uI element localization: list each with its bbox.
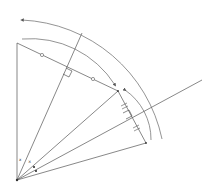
- equal-mark-circle: [91, 77, 94, 80]
- point-B: [117, 90, 119, 92]
- vertex-point: [16, 179, 18, 181]
- angle-label-x: x: [19, 157, 22, 162]
- angle-label-cross: ×: [28, 159, 31, 164]
- angle-mark-dot: [33, 166, 35, 168]
- point-C: [145, 142, 147, 144]
- angle-mark-dot: [35, 170, 37, 172]
- ray-bisector-1: [17, 33, 82, 180]
- segment-BC: [118, 91, 146, 143]
- rays: [17, 33, 202, 180]
- angle-bisector-diagram: x ×: [0, 0, 215, 185]
- middle-arc: [22, 39, 115, 85]
- segments: [17, 43, 146, 143]
- ray-OB: [17, 91, 118, 180]
- segment-AB: [17, 43, 118, 91]
- ray-bisector-2: [17, 80, 202, 180]
- ray-OC: [17, 143, 146, 180]
- equal-mark-circle: [40, 53, 43, 56]
